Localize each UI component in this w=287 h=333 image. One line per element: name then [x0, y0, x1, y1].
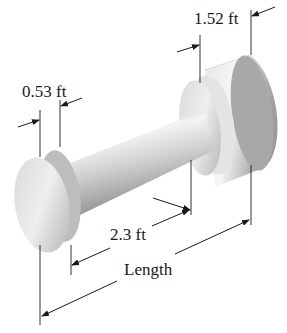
dim-label-left-end: 0.53 ft — [22, 83, 66, 100]
dim-label-right-end: 1.52 ft — [194, 10, 238, 27]
shaft-diagram — [0, 0, 287, 333]
dim-label-shaft-length: 2.3 ft — [110, 226, 146, 243]
dim-label-total-length: Length — [124, 261, 172, 278]
